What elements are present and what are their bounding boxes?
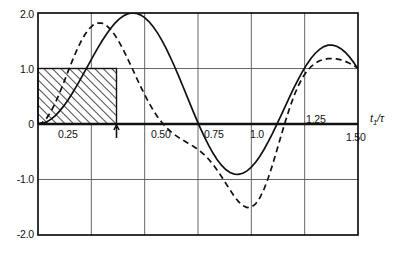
x-tick-label-075: 0.75 [204, 128, 224, 140]
y-tick-label-2: 2.0 [0, 8, 34, 20]
y-tick-label-0: 0 [0, 118, 34, 130]
x-axis-title: t1/τ [370, 112, 384, 127]
hatched-region [38, 69, 117, 125]
y-tick-label-neg1: -1.0 [0, 173, 34, 185]
x-tick-label-050: 0.50 [151, 128, 171, 140]
x-tick-label-150: 1.50 [346, 131, 366, 143]
x-tick-label-125: 1.25 [306, 113, 326, 125]
x-axis-title-tail: /τ [377, 112, 384, 124]
y-tick-label-neg2: -2.0 [0, 228, 34, 240]
chart-figure: 2.0 1.0 0 -1.0 -2.0 0.25 0.50 0.75 1.0 1… [0, 0, 402, 255]
x-tick-label-025: 0.25 [58, 128, 78, 140]
y-tick-label-1: 1.0 [0, 63, 34, 75]
x-tick-label-100: 1.0 [250, 128, 264, 140]
